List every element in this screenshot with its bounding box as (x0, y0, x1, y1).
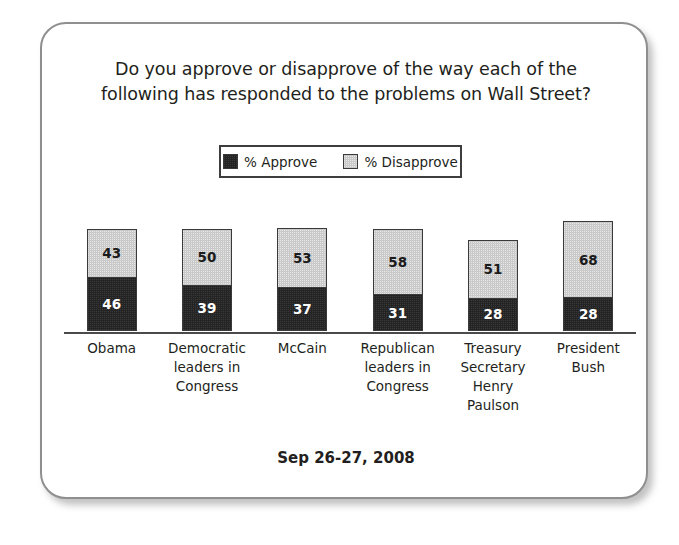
stacked-bar[interactable]: 5128 (468, 240, 518, 331)
legend-label-disapprove: % Disapprove (364, 154, 458, 170)
bar-value-disapprove: 51 (484, 261, 503, 277)
bar-value-approve: 31 (388, 305, 407, 321)
category-label-line: Treasury (446, 339, 539, 358)
category-label-line: Democratic (160, 339, 253, 358)
category-label-line: leaders in (160, 358, 253, 377)
bar-segment-disapprove[interactable]: 58 (374, 230, 422, 295)
bar-value-approve: 37 (293, 301, 312, 317)
bar-value-disapprove: 43 (102, 245, 121, 261)
chart-card: Do you approve or disapprove of the way … (40, 22, 648, 499)
bar-segment-disapprove[interactable]: 68 (564, 222, 612, 299)
stacked-bar[interactable]: 5039 (182, 229, 232, 331)
category-label: Obama (64, 339, 159, 415)
bar-segment-disapprove[interactable]: 43 (88, 230, 136, 278)
bar-value-approve: 46 (102, 296, 121, 312)
bar-segment-disapprove[interactable]: 53 (278, 229, 326, 289)
stacked-bar[interactable]: 6828 (563, 221, 613, 331)
category-label-line: Secretary (446, 358, 539, 377)
bar-segment-approve[interactable]: 37 (278, 288, 326, 330)
stacked-bar[interactable]: 5337 (277, 228, 327, 332)
bar-slot: 4346 (64, 216, 159, 331)
bar-segment-approve[interactable]: 28 (564, 298, 612, 330)
category-label-line: Bush (542, 358, 635, 377)
category-label-line: leaders in (351, 358, 444, 377)
category-label-line: Henry (446, 377, 539, 396)
bar-value-approve: 39 (198, 300, 217, 316)
category-label: Democraticleaders inCongress (159, 339, 254, 415)
bar-group: 434650395337583151286828 (64, 216, 636, 331)
dark-swatch-icon (223, 154, 238, 169)
category-label-line: Congress (160, 377, 253, 396)
light-swatch-icon (343, 154, 358, 169)
bar-slot: 5128 (445, 216, 540, 331)
category-label-line: Obama (65, 339, 158, 358)
plot-area: 434650395337583151286828 (64, 199, 636, 334)
category-label: Republicanleaders inCongress (350, 339, 445, 415)
bar-segment-approve[interactable]: 39 (183, 286, 231, 330)
category-label: TreasurySecretaryHenryPaulson (445, 339, 540, 415)
bar-slot: 5337 (255, 216, 350, 331)
chart-title-line-2: following has responded to the problems … (66, 82, 626, 107)
category-label-line: Congress (351, 377, 444, 396)
bar-segment-approve[interactable]: 31 (374, 295, 422, 330)
bar-slot: 5831 (350, 216, 445, 331)
bar-value-disapprove: 58 (388, 254, 407, 270)
axis-baseline (64, 332, 636, 334)
category-label-line: Paulson (446, 396, 539, 415)
legend-entry-approve: % Approve (223, 154, 317, 170)
bar-value-approve: 28 (579, 306, 598, 322)
category-axis-labels: ObamaDemocraticleaders inCongressMcCainR… (64, 339, 636, 415)
legend-label-approve: % Approve (244, 154, 317, 170)
chart-title-line-1: Do you approve or disapprove of the way … (66, 57, 626, 82)
bar-value-disapprove: 68 (579, 252, 598, 268)
category-label: McCain (255, 339, 350, 415)
bar-value-disapprove: 53 (293, 250, 312, 266)
date-annotation: Sep 26-27, 2008 (66, 449, 626, 467)
stacked-bar[interactable]: 4346 (87, 229, 137, 331)
category-label-line: Republican (351, 339, 444, 358)
bar-segment-approve[interactable]: 28 (469, 299, 517, 330)
bar-value-approve: 28 (484, 306, 503, 322)
chart-title: Do you approve or disapprove of the way … (66, 57, 626, 107)
chart-legend: % Approve % Disapprove (219, 145, 462, 178)
category-label-line: McCain (256, 339, 349, 358)
stacked-bar[interactable]: 5831 (373, 229, 423, 331)
bar-segment-disapprove[interactable]: 50 (183, 230, 231, 286)
legend-entry-disapprove: % Disapprove (343, 154, 458, 170)
bar-slot: 6828 (541, 216, 636, 331)
bar-value-disapprove: 50 (198, 249, 217, 265)
category-label: PresidentBush (541, 339, 636, 415)
bar-segment-approve[interactable]: 46 (88, 278, 136, 330)
bar-slot: 5039 (159, 216, 254, 331)
bar-segment-disapprove[interactable]: 51 (469, 241, 517, 298)
category-label-line: President (542, 339, 635, 358)
